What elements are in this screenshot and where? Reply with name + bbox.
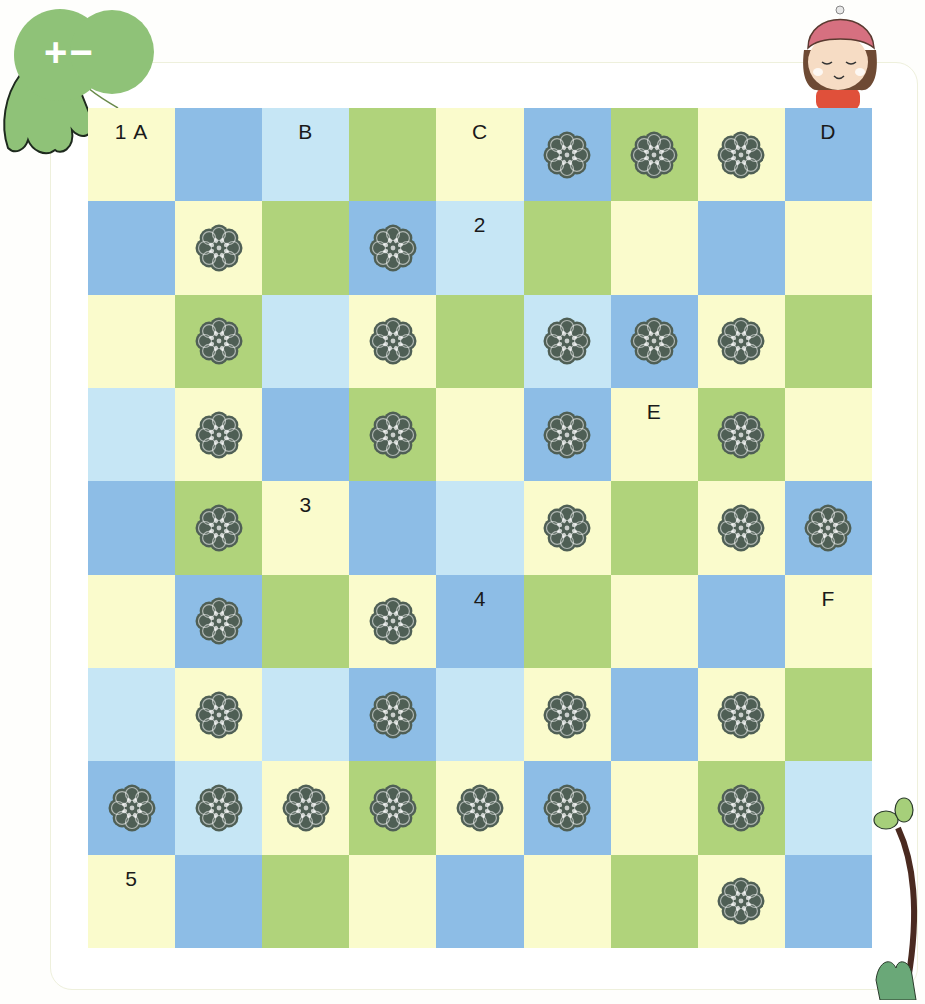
badge-text: +−: [44, 30, 95, 75]
grid-cell-r3-c8: [698, 295, 785, 388]
grid-cell-r7-c8: [698, 668, 785, 761]
grid-cell-r7-c2: [175, 668, 262, 761]
grid-cell-r2-c6: [524, 201, 611, 294]
grid-cell-r1-c3: B: [262, 108, 349, 201]
cell-label: 4: [436, 587, 523, 611]
grid-cell-r4-c8: [698, 388, 785, 481]
grid-cell-r7-c4: [349, 668, 436, 761]
grid-cell-r6-c6: [524, 575, 611, 668]
grid-cell-r9-c3: [262, 855, 349, 948]
cell-label: D: [785, 120, 872, 144]
lace-rosette-icon: [195, 224, 243, 272]
grid-cell-r5-c8: [698, 481, 785, 574]
grid-cell-r2-c4: [349, 201, 436, 294]
lace-rosette-icon: [195, 691, 243, 739]
cell-label: F: [785, 587, 872, 611]
grid-cell-r1-c1: 1 A: [88, 108, 175, 201]
grid-cell-r4-c6: [524, 388, 611, 481]
lace-rosette-icon: [717, 691, 765, 739]
grid-cell-r5-c7: [611, 481, 698, 574]
color-grid-board: 1 ABC: [88, 108, 872, 948]
lace-rosette-icon: [195, 411, 243, 459]
grid-cell-r7-c1: [88, 668, 175, 761]
grid-cell-r8-c4: [349, 761, 436, 854]
cell-label: E: [611, 400, 698, 424]
grid-cell-r7-c3: [262, 668, 349, 761]
lace-rosette-icon: [195, 504, 243, 552]
lace-rosette-icon: [717, 317, 765, 365]
grid-cell-r8-c5: [436, 761, 523, 854]
grid-cell-r9-c4: [349, 855, 436, 948]
grid-cell-r6-c4: [349, 575, 436, 668]
cell-label: C: [436, 120, 523, 144]
lace-rosette-icon: [717, 877, 765, 925]
cell-label: 1 A: [88, 120, 175, 144]
lace-rosette-icon: [543, 131, 591, 179]
lace-rosette-icon: [543, 691, 591, 739]
lace-rosette-icon: [804, 504, 852, 552]
grid-cell-r1-c7: [611, 108, 698, 201]
grid-cell-r2-c9: [785, 201, 872, 294]
grid-cell-r2-c2: [175, 201, 262, 294]
lace-rosette-icon: [369, 784, 417, 832]
grid-cell-r5-c2: [175, 481, 262, 574]
cell-label: 5: [88, 867, 175, 891]
grid-cell-r8-c8: [698, 761, 785, 854]
grid-cell-r9-c7: [611, 855, 698, 948]
grid-cell-r1-c8: [698, 108, 785, 201]
grid-cell-r1-c9: D: [785, 108, 872, 201]
grid-cell-r8-c9: [785, 761, 872, 854]
lace-rosette-icon: [717, 784, 765, 832]
lace-rosette-icon: [195, 784, 243, 832]
grid-cell-r6-c8: [698, 575, 785, 668]
grid-cell-r3-c7: [611, 295, 698, 388]
cell-label: B: [262, 120, 349, 144]
lace-rosette-icon: [543, 504, 591, 552]
lace-rosette-icon: [369, 224, 417, 272]
grid-cell-r5-c9: [785, 481, 872, 574]
grid-cell-r6-c7: [611, 575, 698, 668]
lace-rosette-icon: [195, 597, 243, 645]
grid-cell-r9-c8: [698, 855, 785, 948]
grid-cell-r9-c6: [524, 855, 611, 948]
grid-cell-r8-c2: [175, 761, 262, 854]
grid-cell-r3-c9: [785, 295, 872, 388]
sprout-plant: [868, 790, 925, 1000]
grid-cell-r1-c4: [349, 108, 436, 201]
lace-rosette-icon: [282, 784, 330, 832]
grid-cell-r1-c5: C: [436, 108, 523, 201]
lace-rosette-icon: [369, 597, 417, 645]
sprout-plant-icon: [868, 790, 925, 1000]
grid-cell-r7-c9: [785, 668, 872, 761]
grid-cell-r4-c2: [175, 388, 262, 481]
grid-cell-r4-c5: [436, 388, 523, 481]
lace-rosette-icon: [543, 784, 591, 832]
grid-cell-r9-c2: [175, 855, 262, 948]
grid-cell-r4-c1: [88, 388, 175, 481]
grid-cell-r7-c7: [611, 668, 698, 761]
lace-rosette-icon: [369, 411, 417, 459]
grid-cell-r3-c6: [524, 295, 611, 388]
lace-rosette-icon: [369, 317, 417, 365]
lace-rosette-icon: [108, 784, 156, 832]
grid-cell-r2-c5: 2: [436, 201, 523, 294]
grid-cell-r8-c1: [88, 761, 175, 854]
lace-rosette-icon: [195, 317, 243, 365]
grid-cell-r8-c3: [262, 761, 349, 854]
grid-cell-r6-c9: F: [785, 575, 872, 668]
grid-cell-r3-c3: [262, 295, 349, 388]
grid-cell-r5-c6: [524, 481, 611, 574]
lace-rosette-icon: [717, 131, 765, 179]
grid-cell-r2-c3: [262, 201, 349, 294]
grid-cell-r5-c4: [349, 481, 436, 574]
grid-cell-r3-c4: [349, 295, 436, 388]
grid-cell-r6-c3: [262, 575, 349, 668]
lace-rosette-icon: [543, 411, 591, 459]
grid-cell-r1-c2: [175, 108, 262, 201]
grid-cell-r9-c5: [436, 855, 523, 948]
lace-rosette-icon: [630, 131, 678, 179]
cell-label: 2: [436, 213, 523, 237]
grid-cell-r2-c1: [88, 201, 175, 294]
grid-cell-r2-c8: [698, 201, 785, 294]
grid-cell-r3-c2: [175, 295, 262, 388]
